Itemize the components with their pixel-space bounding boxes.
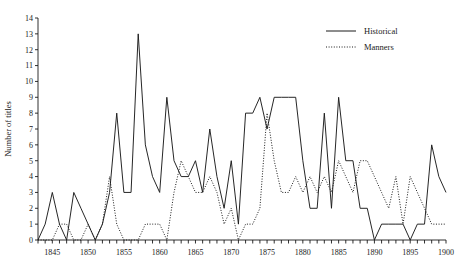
- legend-label-manners: Manners: [364, 42, 394, 52]
- x-axis-tick-label: 1880: [295, 248, 311, 257]
- x-axis-tick-label: 1860: [152, 248, 168, 257]
- x-axis-tick-label: 1870: [223, 248, 239, 257]
- series-line-historical: [38, 34, 446, 240]
- y-axis-title: Number of titles: [3, 101, 13, 157]
- x-axis-tick-label: 1900: [438, 248, 454, 257]
- y-axis-tick-label: 10: [25, 77, 33, 86]
- y-axis-tick-label: 7: [29, 125, 33, 134]
- y-axis-tick-label: 11: [25, 61, 33, 70]
- y-axis-tick-label: 0: [29, 236, 33, 245]
- y-axis-tick-label: 5: [29, 157, 33, 166]
- x-axis: 1845185018551860186518701875188018851890…: [38, 240, 454, 257]
- y-axis-tick-label: 6: [29, 141, 33, 150]
- y-axis-title-label: Number of titles: [3, 101, 13, 157]
- chart-figure: Number of titles 01234567891011121314 18…: [0, 0, 462, 268]
- y-axis-tick-label: 8: [29, 109, 33, 118]
- x-axis-tick-label: 1875: [259, 248, 275, 257]
- y-axis-tick-label: 12: [25, 46, 33, 55]
- y-axis-tick-label: 2: [29, 204, 33, 213]
- y-axis-tick-label: 4: [29, 172, 33, 181]
- y-axis-tick-label: 13: [25, 30, 33, 39]
- data-series-group: [38, 34, 446, 240]
- series-line-manners: [38, 113, 446, 240]
- x-axis-tick-label: 1865: [187, 248, 203, 257]
- line-chart: Number of titles 01234567891011121314 18…: [0, 0, 462, 268]
- chart-legend: HistoricalManners: [326, 26, 398, 52]
- x-axis-tick-label: 1890: [366, 248, 382, 257]
- y-axis: 01234567891011121314: [25, 14, 38, 245]
- x-axis-tick-label: 1895: [402, 248, 418, 257]
- y-axis-tick-label: 1: [29, 220, 33, 229]
- x-axis-tick-label: 1885: [331, 248, 347, 257]
- legend-label-historical: Historical: [364, 26, 398, 36]
- y-axis-tick-label: 9: [29, 93, 33, 102]
- x-axis-tick-label: 1855: [116, 248, 132, 257]
- y-axis-tick-label: 3: [29, 188, 33, 197]
- x-axis-tick-label: 1845: [44, 248, 60, 257]
- y-axis-tick-label: 14: [25, 14, 33, 23]
- x-axis-tick-label: 1850: [80, 248, 96, 257]
